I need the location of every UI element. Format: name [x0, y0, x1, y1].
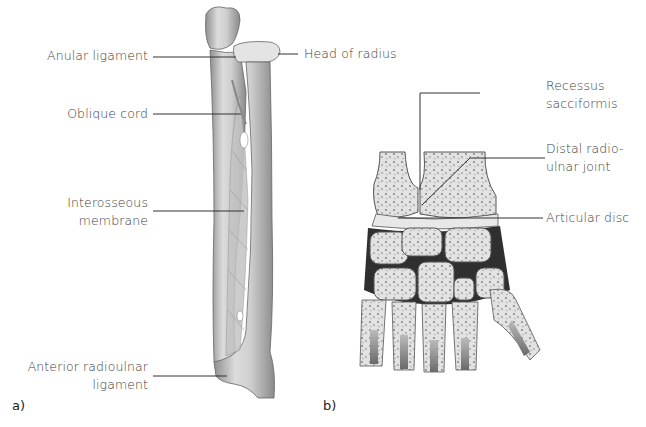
wrist-illustration	[360, 152, 540, 372]
label-distal-radioulnar-line2: ulnar joint	[546, 159, 611, 175]
label-articular-disc: Articular disc	[546, 210, 629, 226]
label-head-of-radius: Head of radius	[304, 46, 397, 62]
label-oblique-cord: Oblique cord	[0, 106, 148, 122]
forearm-illustration	[206, 7, 281, 398]
label-recessus-sacciformis-line2: sacciformis	[546, 96, 618, 112]
label-distal-radioulnar-line1: Distal radio-	[546, 141, 624, 157]
label-anterior-radioulnar-line1: Anterior radioulnar	[0, 359, 148, 375]
label-interosseous-membrane-line1: Interosseous	[0, 195, 148, 211]
panel-label-b: b)	[323, 398, 336, 413]
label-anular-ligament: Anular ligament	[0, 48, 148, 64]
label-recessus-sacciformis-line1: Recessus	[546, 78, 605, 94]
panel-label-a: a)	[12, 398, 25, 413]
label-interosseous-membrane-line2: membrane	[0, 213, 148, 229]
label-anterior-radioulnar-line2: ligament	[0, 377, 148, 393]
